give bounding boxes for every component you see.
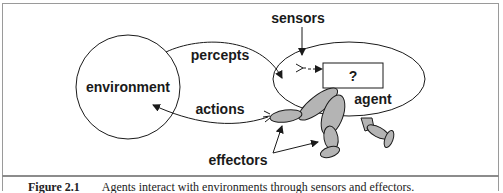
agent-environment-diagram: environment ? agent percepts actions sen… <box>0 0 503 176</box>
percepts-arrow: percepts <box>166 42 282 78</box>
sensor-eye-icon <box>296 64 306 72</box>
caption-divider <box>2 175 499 177</box>
caption-text: Agents interact with environments throug… <box>102 180 414 193</box>
foot-left <box>319 144 341 160</box>
agent-node: ? agent <box>273 42 425 116</box>
unknown-box-label: ? <box>349 68 358 84</box>
figure-number: Figure 2.1 <box>28 180 80 193</box>
forearm <box>269 108 302 124</box>
percepts-label: percepts <box>191 47 250 63</box>
figure-caption: Figure 2.1Agents interact with environme… <box>28 180 414 193</box>
environment-label: environment <box>86 79 170 95</box>
sensors-annotation: sensors <box>271 10 325 72</box>
actions-arrow: actions <box>153 101 268 123</box>
effectors-label: effectors <box>208 152 267 168</box>
actions-label: actions <box>195 101 244 117</box>
effectors-annotation: effectors <box>208 126 318 168</box>
agent-label: agent <box>354 91 392 107</box>
sensors-label: sensors <box>271 10 325 26</box>
environment-node: environment <box>76 35 180 139</box>
gripper-icon <box>263 111 270 122</box>
